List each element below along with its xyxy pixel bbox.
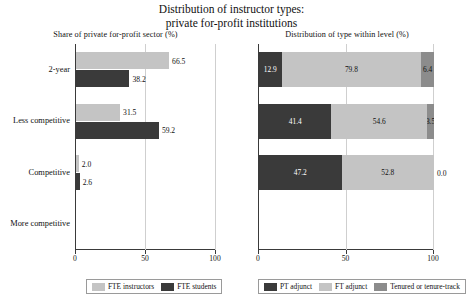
legend-item[interactable]: PT adjunct: [264, 282, 312, 291]
stacked-segment[interactable]: 79.8: [282, 52, 422, 87]
legend-swatch: [92, 283, 105, 291]
chart-title-line-1: Distribution of instructor types:: [0, 3, 463, 17]
legend-label: PT adjunct: [280, 282, 312, 291]
category-label: Competitive: [29, 168, 70, 177]
bar[interactable]: [76, 173, 80, 190]
plot-area-right: 05010012.979.86.441.454.63.547.252.80.0: [258, 44, 433, 250]
x-tick-label: 50: [331, 254, 361, 263]
legend-item[interactable]: FTE instructors: [92, 282, 154, 291]
bar[interactable]: [76, 70, 129, 87]
category-label: Less competitive: [13, 116, 70, 125]
stacked-bar-row: 12.979.86.4: [259, 52, 434, 87]
category-label: 2-year: [49, 65, 70, 74]
legend-swatch: [161, 283, 174, 291]
stacked-bar-row: 41.454.63.5: [259, 104, 434, 139]
legend-left: FTE instructorsFTE students: [86, 279, 222, 294]
panel-right: Distribution of type within level (%) 05…: [231, 30, 463, 275]
bar[interactable]: [76, 104, 120, 121]
x-tick-label: 0: [243, 254, 273, 263]
stacked-segment[interactable]: 6.4: [421, 52, 434, 87]
x-tick-label: 100: [418, 254, 448, 263]
bar-row: 59.2: [76, 122, 216, 139]
legend-item[interactable]: FT adjunct: [319, 282, 367, 291]
bar-row: 31.5: [76, 104, 216, 121]
stacked-segment[interactable]: 54.6: [331, 104, 427, 139]
bar-value-label: 59.2: [162, 126, 175, 135]
legend-swatch: [319, 283, 332, 291]
stacked-segment[interactable]: 3.5: [427, 104, 434, 139]
legend-label: FTE instructors: [108, 282, 154, 291]
legend-label: FT adjunct: [335, 282, 367, 291]
stacked-bar-row: 47.252.80.0: [259, 155, 434, 190]
stacked-value-label: 0.0: [437, 168, 447, 177]
stacked-bar-row: [259, 207, 434, 242]
legend-swatch: [374, 283, 387, 291]
x-tick-label: 100: [200, 254, 230, 263]
bar-row: [76, 225, 216, 242]
x-tick-label: 50: [130, 254, 160, 263]
chart-title: Distribution of instructor types: privat…: [0, 3, 463, 30]
panel-left: Share of private for-profit sector (%) 0…: [0, 30, 231, 275]
stacked-segment[interactable]: 47.2: [259, 155, 342, 190]
legend-item[interactable]: FTE students: [161, 282, 216, 291]
bar-value-label: 66.5: [172, 56, 185, 65]
bar-value-label: 31.5: [123, 108, 136, 117]
panel-right-subtitle: Distribution of type within level (%): [231, 30, 463, 39]
bar-row: 66.5: [76, 52, 216, 69]
bar-row: 2.0: [76, 155, 216, 172]
panel-left-subtitle: Share of private for-profit sector (%): [0, 30, 231, 39]
x-tick-label: 0: [60, 254, 90, 263]
bar-value-label: 2.0: [82, 159, 92, 168]
stacked-segment[interactable]: 52.8: [342, 155, 434, 190]
legend-swatch: [264, 283, 277, 291]
chart-title-line-2: private for-profit institutions: [0, 17, 463, 31]
stacked-segment[interactable]: 41.4: [259, 104, 331, 139]
plot-area-left: 05010066.538.231.559.22.02.6: [75, 44, 215, 250]
legend-label: Tenured or tenure-track: [390, 282, 460, 291]
stacked-segment[interactable]: 12.9: [259, 52, 282, 87]
legend-item[interactable]: Tenured or tenure-track: [374, 282, 460, 291]
legend-right: PT adjunctFT adjunctTenured or tenure-tr…: [258, 279, 466, 294]
category-label: More competitive: [10, 219, 70, 228]
bar[interactable]: [76, 122, 159, 139]
bar-value-label: 38.2: [132, 74, 145, 83]
bar[interactable]: [76, 52, 169, 69]
bar-value-label: 2.6: [83, 177, 93, 186]
bar-row: [76, 207, 216, 224]
bar[interactable]: [76, 155, 79, 172]
bar-row: 38.2: [76, 70, 216, 87]
bar-row: 2.6: [76, 173, 216, 190]
legend-label: FTE students: [177, 282, 216, 291]
